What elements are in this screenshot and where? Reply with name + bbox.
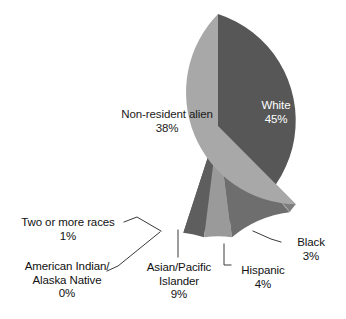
slice-label-two-or-more-races: Two or more races 1%	[4, 216, 132, 243]
slice-label-black-name: Black	[283, 236, 339, 250]
leader-line-hispanic	[224, 244, 231, 265]
slice-label-hispanic: Hispanic 4%	[226, 264, 300, 291]
slice-label-two-or-more-races-name: Two or more races	[4, 216, 132, 230]
slice-label-asian-pacific-line1: Asian/Pacific	[134, 261, 224, 275]
slice-label-non-resident-alien-name: Non-resident alien	[106, 108, 228, 122]
slice-label-non-resident-alien-percent: 38%	[106, 122, 228, 136]
slice-label-non-resident-alien: Non-resident alien 38%	[106, 108, 228, 135]
slice-label-white: White 45%	[243, 99, 309, 126]
slice-label-asian-pacific-islander: Asian/Pacific Islander 9%	[134, 261, 224, 302]
slice-label-american-indian-alaska-native: American Indian/ Alaska Native 0%	[2, 260, 132, 301]
slice-label-black: Black 3%	[283, 236, 339, 263]
slice-label-white-percent: 45%	[243, 113, 309, 127]
slice-label-american-indian-line2: Alaska Native	[2, 274, 132, 288]
slice-label-two-or-more-races-percent: 1%	[4, 230, 132, 244]
leader-line-black	[253, 231, 281, 242]
slice-label-black-percent: 3%	[283, 250, 339, 264]
slice-label-hispanic-percent: 4%	[226, 278, 300, 292]
slice-label-american-indian-line1: American Indian/	[2, 260, 132, 274]
pie-chart-figure: White 45% Non-resident alien 38% Two or …	[0, 0, 346, 319]
slice-label-hispanic-name: Hispanic	[226, 264, 300, 278]
slice-label-white-name: White	[243, 99, 309, 113]
slice-label-american-indian-percent: 0%	[2, 287, 132, 301]
slice-label-asian-pacific-line2: Islander	[134, 275, 224, 289]
slice-label-asian-pacific-percent: 9%	[134, 288, 224, 302]
